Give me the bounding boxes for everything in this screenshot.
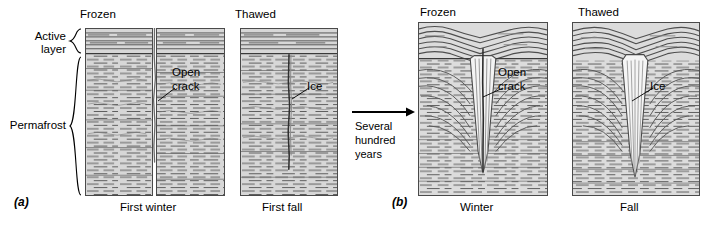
panel-b-ice-leader (628, 86, 654, 104)
active-layer-brace (68, 28, 82, 54)
panel-a-open-crack-leader (150, 86, 176, 104)
several-hundred-years-caption: Several hundred years (355, 120, 395, 161)
panel-a-open-crack (146, 28, 162, 196)
panel-a-ice-leader (288, 86, 310, 102)
panel-a-first-winter-right-block (156, 28, 225, 196)
panel-a-open-crack-label: Open crack (172, 66, 200, 94)
panel-b-id: (b) (392, 196, 407, 210)
active-layer-label: Active layer (6, 30, 66, 56)
panel-a-frozen-header: Frozen (80, 8, 116, 21)
permafrost-label: Permafrost (0, 119, 66, 132)
several-hundred-years-arrow (352, 106, 416, 118)
panel-b-fall-footer: Fall (620, 201, 639, 214)
panel-a-id: (a) (14, 196, 29, 210)
panel-b-winter-footer: Winter (460, 201, 493, 214)
panel-a-first-winter-footer: First winter (120, 201, 176, 214)
ice-wedge-figure: Active layer Permafrost (a) Frozen Thawe… (0, 0, 706, 229)
permafrost-brace (68, 56, 82, 196)
panel-b-open-crack-leader (480, 86, 504, 100)
panel-b-frozen-header: Frozen (420, 6, 456, 19)
panel-a-first-fall-footer: First fall (262, 201, 302, 214)
panel-a-thawed-header: Thawed (235, 8, 276, 21)
panel-a-first-fall-block (240, 28, 338, 196)
panel-b-thawed-header: Thawed (578, 6, 619, 19)
panel-b-winter-block (418, 22, 548, 196)
panel-a-first-winter-left-block (85, 28, 153, 196)
panel-b-fall-block (572, 22, 700, 196)
